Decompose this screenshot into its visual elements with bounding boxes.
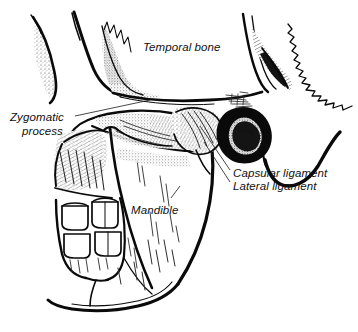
label-capsular-ligament: Capsular ligament xyxy=(233,167,328,179)
label-lateral-ligament: Lateral ligament xyxy=(233,180,317,192)
anatomical-figure: Temporal bone Zygomatic process Capsular… xyxy=(0,0,358,332)
tmj-illustration: Temporal bone Zygomatic process Capsular… xyxy=(0,0,358,332)
label-mandible: Mandible xyxy=(131,204,178,216)
label-zygomatic-process-line2: process xyxy=(21,125,63,137)
label-temporal-bone: Temporal bone xyxy=(143,41,221,53)
label-zygomatic-process-line1: Zygomatic xyxy=(9,111,64,123)
